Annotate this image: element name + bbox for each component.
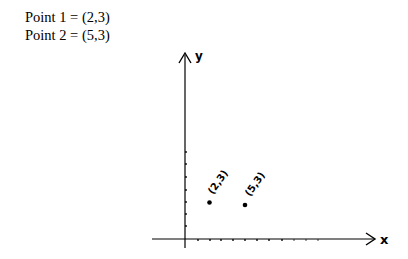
point-1-label: (2,3) (206, 168, 230, 196)
x-axis: x (152, 232, 389, 247)
point-2-marker (243, 203, 248, 208)
y-axis: y (179, 49, 203, 248)
point-1: (2,3) (206, 168, 230, 205)
coordinate-plane: x y (2,3) (5,3) (0, 0, 408, 259)
x-axis-label: x (380, 232, 389, 247)
point-1-marker (207, 200, 212, 205)
y-axis-label: y (195, 49, 203, 63)
point-2-label: (5,3) (243, 170, 267, 198)
point-2: (5,3) (243, 170, 267, 207)
